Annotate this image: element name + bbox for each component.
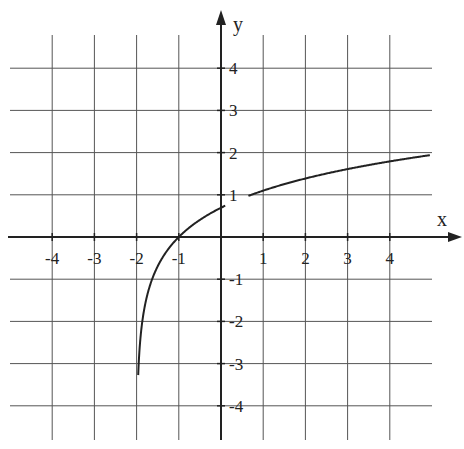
y-tick-label: 2	[229, 144, 238, 163]
curve-segment	[138, 206, 225, 375]
y-tick-label: -4	[229, 397, 244, 416]
x-tick-label: -3	[87, 249, 101, 268]
curve-segment	[248, 155, 429, 196]
x-tick-label: -2	[130, 249, 144, 268]
x-tick-label: 3	[343, 249, 352, 268]
x-tick-label: 2	[301, 249, 310, 268]
y-tick-label: 1	[229, 186, 238, 205]
x-tick-label: 1	[259, 249, 268, 268]
y-axis-arrow-icon	[216, 10, 226, 25]
y-tick-label: -1	[229, 270, 243, 289]
y-tick-label: -2	[229, 312, 243, 331]
y-axis-label: y	[233, 13, 243, 36]
chart: -4-3-2-112344321-1-2-3-4 x y	[0, 0, 464, 449]
x-tick-label: -4	[45, 249, 60, 268]
y-tick-label: -3	[229, 355, 243, 374]
y-tick-label: 4	[229, 59, 238, 78]
x-tick-label: 4	[386, 249, 395, 268]
y-tick-label: 3	[229, 101, 238, 120]
x-axis-label: x	[437, 208, 447, 230]
x-tick-label: -1	[172, 249, 186, 268]
x-axis-arrow-icon	[448, 232, 462, 242]
